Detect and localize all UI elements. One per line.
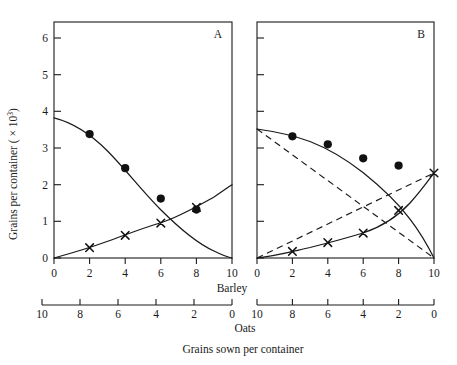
panel-a: A 0 1 2 3 4 5 6 bbox=[42, 22, 238, 279]
panel-a-x-tick-labels: 0 2 4 6 8 10 bbox=[51, 267, 238, 279]
panel-b-x-ticks bbox=[257, 258, 434, 264]
y-axis-label-tail: ) bbox=[7, 108, 20, 112]
data-point-circle bbox=[359, 154, 367, 162]
oats-tick-label-8: 8 bbox=[290, 308, 296, 320]
y-axis-label-main: Grains per container ( × 10 bbox=[7, 115, 20, 240]
oats-tick-label-2: 2 bbox=[396, 308, 402, 320]
barley-axis-title: Barley bbox=[217, 282, 248, 295]
panel-a-frame bbox=[54, 22, 232, 258]
oats-tick-label-6: 6 bbox=[325, 308, 331, 320]
x-tick-label-5: 10 bbox=[226, 267, 238, 279]
x-tick-label-3: 6 bbox=[360, 267, 366, 279]
panel-a-x-ticks bbox=[54, 258, 232, 264]
panel-b-frame bbox=[257, 22, 434, 258]
svg-text:Grains per container ( × 103): Grains per container ( × 103) bbox=[6, 108, 20, 240]
panel-b: B 0 2 4 bbox=[254, 22, 440, 279]
oats-tick-label-2: 2 bbox=[191, 308, 197, 320]
y-tick-label-4: 4 bbox=[42, 105, 48, 117]
data-point-circle bbox=[288, 132, 296, 140]
y-axis-label: Grains per container ( × 103) bbox=[6, 108, 20, 240]
figure-container: Grains per container ( × 103) A 0 1 2 bbox=[0, 0, 457, 365]
figure-svg: Grains per container ( × 103) A 0 1 2 bbox=[0, 0, 457, 365]
y-tick-label-3: 3 bbox=[42, 142, 48, 154]
oats-tick-label-4: 4 bbox=[153, 308, 159, 320]
oats-tick-label-6: 6 bbox=[115, 308, 121, 320]
y-tick-label-1: 1 bbox=[42, 215, 48, 227]
data-point-circle bbox=[157, 195, 165, 203]
oats-tick-label-4: 4 bbox=[360, 308, 366, 320]
oats-tick-label-10: 10 bbox=[251, 308, 263, 320]
panel-a-barley-markers bbox=[86, 130, 201, 214]
y-tick-label-0: 0 bbox=[42, 252, 48, 264]
panel-a-barley-curve bbox=[54, 118, 232, 258]
panel-b-x-tick-labels: 0 2 4 6 8 10 bbox=[254, 267, 440, 279]
x-tick-label-3: 6 bbox=[158, 267, 164, 279]
x-tick-label-1: 2 bbox=[290, 267, 296, 279]
y-tick-label-6: 6 bbox=[42, 32, 48, 44]
figure-caption: Grains sown per container bbox=[182, 343, 303, 356]
x-tick-label-2: 4 bbox=[122, 267, 128, 279]
panel-b-letter: B bbox=[417, 28, 425, 40]
data-point-circle bbox=[86, 130, 94, 138]
y-tick-label-5: 5 bbox=[42, 69, 48, 81]
data-point-circle bbox=[395, 162, 403, 170]
panel-b-y-ticks bbox=[257, 38, 264, 258]
oats-axis-title: Oats bbox=[234, 322, 256, 334]
oats-tick-label-10: 10 bbox=[36, 308, 48, 320]
oats-ruler-a: 10 8 6 4 2 0 bbox=[36, 299, 235, 320]
x-tick-label-0: 0 bbox=[51, 267, 57, 279]
data-point-circle bbox=[121, 164, 129, 172]
panel-a-oats-markers bbox=[86, 204, 200, 252]
panel-a-y-ticks bbox=[54, 38, 61, 258]
x-tick-label-1: 2 bbox=[87, 267, 93, 279]
oats-tick-label-8: 8 bbox=[77, 308, 83, 320]
x-tick-label-0: 0 bbox=[254, 267, 260, 279]
data-point-circle bbox=[324, 140, 332, 148]
x-tick-label-4: 8 bbox=[396, 267, 402, 279]
oats-tick-label-0: 0 bbox=[229, 308, 235, 320]
oats-ruler-b: 10 8 6 4 2 0 bbox=[251, 299, 437, 320]
oats-tick-label-0: 0 bbox=[431, 308, 437, 320]
x-tick-label-2: 4 bbox=[325, 267, 331, 279]
y-tick-label-2: 2 bbox=[42, 179, 48, 191]
panel-a-y-tick-labels: 0 1 2 3 4 5 6 bbox=[42, 32, 48, 264]
x-tick-label-5: 10 bbox=[428, 267, 440, 279]
x-tick-label-4: 8 bbox=[194, 267, 200, 279]
panel-a-letter: A bbox=[214, 28, 223, 40]
